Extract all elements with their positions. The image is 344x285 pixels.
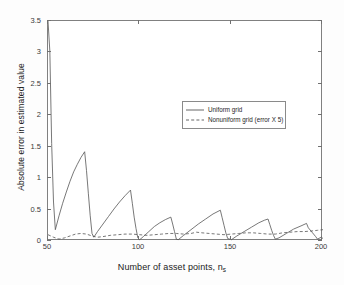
legend-line-solid-icon <box>185 106 205 114</box>
x-tick-mark-top <box>138 20 139 24</box>
x-tick-mark <box>47 236 48 240</box>
legend-label: Uniform grid <box>208 107 242 113</box>
y-tick-label: 1 <box>37 174 41 182</box>
y-tick-label: 2 <box>37 111 41 119</box>
x-tick-label: 200 <box>309 243 333 251</box>
x-tick-mark-top <box>230 20 231 24</box>
y-tick-mark-right <box>318 114 322 115</box>
legend-line-dashed-icon <box>185 116 205 124</box>
x-tick-label: 50 <box>37 243 57 251</box>
x-tick-mark-top <box>321 20 322 24</box>
x-tick-mark <box>321 236 322 240</box>
x-tick-mark <box>138 236 139 240</box>
legend-item-uniform-grid: Uniform grid <box>185 105 282 115</box>
y-tick-mark-right <box>318 240 322 241</box>
x-tick-label: 150 <box>218 243 242 251</box>
legend-label: Nonuniform grid (error X 5) <box>208 117 283 123</box>
x-axis-title: Number of asset points, ns <box>0 262 344 273</box>
plot-area <box>47 20 322 240</box>
y-axis-title: Absolute error in estimated value <box>16 12 26 242</box>
y-tick-label: 3.5 <box>31 17 41 25</box>
y-tick-label: 3 <box>37 48 41 56</box>
x-tick-label: 100 <box>126 243 150 251</box>
y-tick-mark <box>47 51 51 52</box>
x-tick-mark-top <box>47 20 48 24</box>
x-axis-title-subscript: s <box>223 266 226 273</box>
y-tick-mark <box>47 209 51 210</box>
legend: Uniform grid Nonuniform grid (error X 5) <box>182 101 286 129</box>
series-uniform-grid <box>48 21 323 240</box>
y-tick-label: 2.5 <box>31 80 41 88</box>
y-tick-mark <box>47 177 51 178</box>
chart-canvas <box>48 21 323 241</box>
legend-item-nonuniform-grid: Nonuniform grid (error X 5) <box>185 115 282 125</box>
x-axis-title-main: Number of asset points, n <box>118 262 223 272</box>
y-tick-mark <box>47 114 51 115</box>
y-tick-label: 0.5 <box>31 206 41 214</box>
figure-container: 3.5 3 2.5 2 1.5 1 0.5 0 50 100 150 200 N… <box>0 0 344 285</box>
y-tick-label: 1.5 <box>31 143 41 151</box>
y-tick-mark-right <box>318 209 322 210</box>
y-tick-mark <box>47 83 51 84</box>
y-tick-mark-right <box>318 146 322 147</box>
y-tick-mark-right <box>318 83 322 84</box>
y-tick-mark <box>47 146 51 147</box>
y-tick-mark <box>47 240 51 241</box>
x-tick-mark <box>230 236 231 240</box>
y-tick-mark-right <box>318 177 322 178</box>
y-tick-mark-right <box>318 51 322 52</box>
